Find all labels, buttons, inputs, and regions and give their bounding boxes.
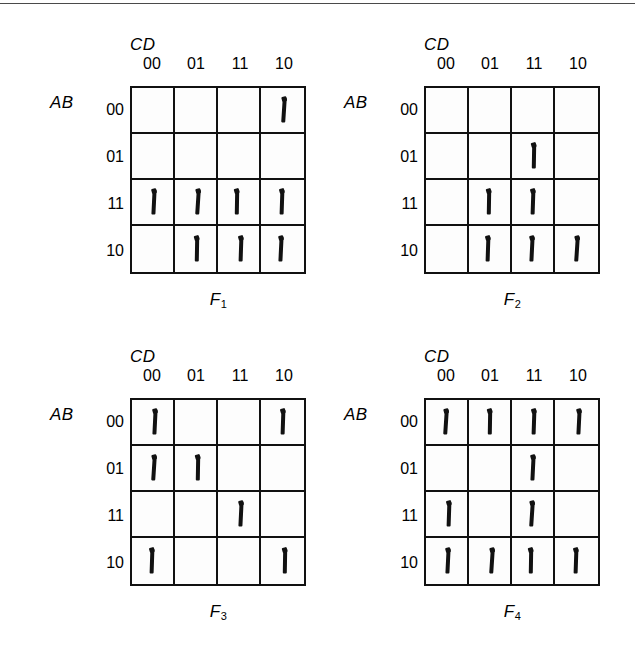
kmap-cell-f1-ab01-cd11 (218, 134, 261, 180)
kmap-caption-f3: F3 (130, 602, 306, 622)
kmap-f1: CD 00 01 11 10 AB 00 01 11 10 F1 (40, 35, 310, 325)
kmap-f4: CD 00 01 11 10 AB 00 01 11 10 F4 (334, 347, 604, 637)
kmap-cell-f1-ab10-cd01 (175, 226, 218, 272)
kmap-cell-f2-ab00-cd01 (469, 88, 512, 134)
kmap-cell-f4-ab11-cd00 (426, 492, 469, 538)
row-headers: 00 01 11 10 (84, 398, 124, 586)
kmap-cell-f3-ab10-cd00 (132, 538, 175, 584)
column-header-11: 11 (512, 367, 556, 385)
kmap-cell-f1-ab01-cd00 (132, 134, 175, 180)
function-name-sub: 2 (515, 298, 521, 310)
minterm-one-mark-icon (280, 409, 285, 434)
column-header-11: 11 (218, 55, 262, 73)
function-name-base: F (210, 602, 220, 621)
kmap-cell-f4-ab10-cd00 (426, 538, 469, 584)
column-header-10: 10 (556, 367, 600, 385)
kmap-cell-f2-ab01-cd00 (426, 134, 469, 180)
kmap-cell-f4-ab00-cd00 (426, 400, 469, 446)
column-headers: 00 01 11 10 (130, 367, 306, 385)
function-name-base: F (504, 602, 514, 621)
column-header-00: 00 (424, 55, 468, 73)
kmap-cell-f2-ab11-cd10 (555, 180, 598, 226)
kmap-cell-f2-ab01-cd10 (555, 134, 598, 180)
kmap-cell-f3-ab11-cd00 (132, 492, 175, 538)
kmap-cell-f3-ab00-cd00 (132, 400, 175, 446)
cd-group-label: CD (424, 35, 450, 55)
kmap-cell-f3-ab00-cd01 (175, 400, 218, 446)
column-header-11: 11 (218, 367, 262, 385)
kmap-caption-f1: F1 (130, 290, 306, 310)
minterm-one-mark-icon (149, 548, 154, 573)
minterm-one-mark-icon (446, 501, 451, 526)
function-name-sub: 4 (515, 610, 521, 622)
row-header-10: 10 (84, 539, 124, 586)
kmap-cell-f4-ab01-cd11 (512, 446, 555, 492)
row-header-10: 10 (84, 227, 124, 274)
row-header-00: 00 (378, 86, 418, 133)
cd-group-label: CD (424, 347, 450, 367)
kmap-cell-f1-ab00-cd00 (132, 88, 175, 134)
kmap-cell-f4-ab00-cd11 (512, 400, 555, 446)
kmap-grid-f4 (424, 398, 600, 586)
minterm-one-mark-icon (151, 189, 156, 214)
row-headers: 00 01 11 10 (378, 398, 418, 586)
kmap-cell-f3-ab11-cd11 (218, 492, 261, 538)
kmap-cell-f3-ab11-cd10 (261, 492, 304, 538)
column-header-00: 00 (130, 367, 174, 385)
minterm-one-mark-icon (238, 501, 243, 526)
column-header-10: 10 (262, 367, 306, 385)
ab-group-label: AB (344, 93, 368, 113)
kmap-cell-f4-ab10-cd10 (555, 538, 598, 584)
kmap-cell-f3-ab00-cd11 (218, 400, 261, 446)
kmap-cell-f3-ab01-cd10 (261, 446, 304, 492)
column-header-10: 10 (262, 55, 306, 73)
row-header-11: 11 (378, 180, 418, 227)
minterm-one-mark-icon (530, 189, 535, 214)
kmap-grid-f3 (130, 398, 306, 586)
row-header-01: 01 (84, 133, 124, 180)
column-headers: 00 01 11 10 (130, 55, 306, 73)
kmap-cell-f2-ab10-cd01 (469, 226, 512, 272)
kmap-cell-f2-ab00-cd11 (512, 88, 555, 134)
figure-top-rule (0, 3, 635, 4)
kmap-cell-f1-ab00-cd01 (175, 88, 218, 134)
function-name-sub: 3 (221, 610, 227, 622)
kmap-cell-f4-ab00-cd10 (555, 400, 598, 446)
kmap-caption-f4: F4 (424, 602, 600, 622)
kmap-cell-f3-ab01-cd11 (218, 446, 261, 492)
ab-group-label: AB (50, 93, 74, 113)
row-header-01: 01 (378, 445, 418, 492)
minterm-one-mark-icon (487, 409, 491, 434)
kmap-cell-f4-ab00-cd01 (469, 400, 512, 446)
kmap-cell-f2-ab01-cd01 (469, 134, 512, 180)
minterm-one-mark-icon (531, 409, 536, 434)
column-header-00: 00 (130, 55, 174, 73)
ab-group-label: AB (50, 405, 74, 425)
kmap-cell-f4-ab10-cd11 (512, 538, 555, 584)
function-name-base: F (210, 290, 220, 309)
kmap-f2: CD 00 01 11 10 AB 00 01 11 10 F2 (334, 35, 604, 325)
row-header-01: 01 (378, 133, 418, 180)
kmap-cell-f1-ab10-cd00 (132, 226, 175, 272)
minterm-one-mark-icon (489, 548, 495, 573)
kmap-f3: CD 00 01 11 10 AB 00 01 11 10 F3 (40, 347, 310, 637)
kmap-cell-f1-ab10-cd10 (261, 226, 304, 272)
kmap-caption-f2: F2 (424, 290, 600, 310)
kmap-cell-f4-ab11-cd10 (555, 492, 598, 538)
kmap-cell-f1-ab01-cd01 (175, 134, 218, 180)
kmap-cell-f2-ab00-cd00 (426, 88, 469, 134)
kmap-grid-f1 (130, 86, 306, 274)
minterm-one-mark-icon (486, 189, 490, 214)
cd-group-label: CD (130, 347, 156, 367)
kmap-cell-f1-ab11-cd01 (175, 180, 218, 226)
kmap-cell-f3-ab00-cd10 (261, 400, 304, 446)
minterm-one-mark-icon (238, 236, 243, 261)
kmap-cell-f3-ab01-cd01 (175, 446, 218, 492)
row-header-11: 11 (84, 492, 124, 539)
minterm-one-mark-icon (281, 97, 287, 122)
kmap-cell-f1-ab11-cd11 (218, 180, 261, 226)
kmap-cell-f1-ab01-cd10 (261, 134, 304, 180)
minterm-one-mark-icon (152, 409, 157, 434)
row-header-00: 00 (84, 86, 124, 133)
minterm-one-mark-icon (530, 455, 535, 480)
